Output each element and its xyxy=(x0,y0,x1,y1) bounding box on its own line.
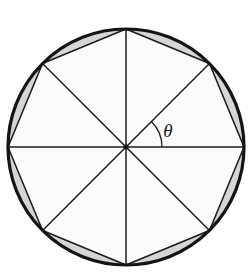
figure-canvas: θ xyxy=(0,0,251,276)
theta-label: θ xyxy=(163,120,172,141)
center-point xyxy=(123,144,128,149)
geometry-figure: θ xyxy=(0,0,251,276)
